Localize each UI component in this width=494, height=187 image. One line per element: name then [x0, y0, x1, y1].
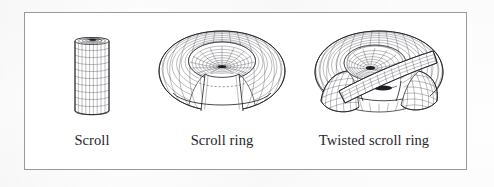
panel-twisted-scroll-ring: Twisted scroll ring	[283, 13, 465, 171]
figure-frame-border: Scroll	[24, 12, 467, 170]
caption-twisted-scroll-ring: Twisted scroll ring	[283, 131, 465, 149]
panel-scroll: Scroll	[31, 13, 153, 171]
caption-scroll-ring: Scroll ring	[149, 131, 295, 149]
figure-root: Scroll	[0, 0, 494, 187]
panel-scroll-ring: Scroll ring	[149, 13, 295, 171]
twisted-scroll-ring-illustration	[283, 19, 465, 131]
scroll-ring-illustration	[149, 19, 295, 131]
caption-scroll: Scroll	[31, 131, 153, 149]
scroll-top-spiral	[79, 38, 106, 43]
scroll-illustration	[31, 19, 153, 131]
